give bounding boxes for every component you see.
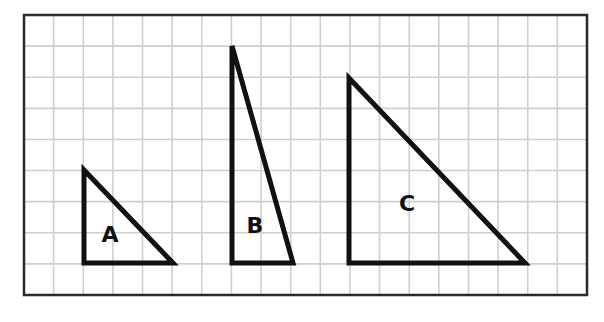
triangle-a-label: A (101, 222, 118, 247)
triangles: A B C (84, 46, 525, 263)
triangle-c-label: C (399, 191, 415, 216)
diagram-frame (24, 15, 587, 295)
triangle-b-label: B (247, 213, 264, 238)
grid-lines (24, 15, 587, 295)
triangle-a (84, 170, 173, 263)
triangle-diagram: A B C (0, 0, 604, 322)
